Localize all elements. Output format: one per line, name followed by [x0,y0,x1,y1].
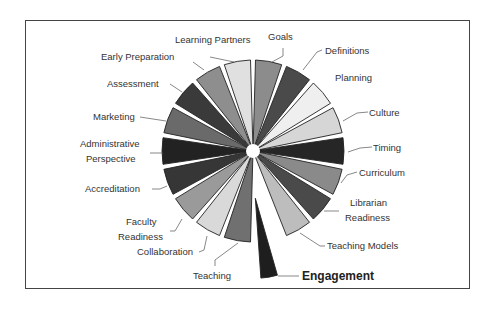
label-engagement: Engagement [302,269,374,283]
label-marketing: Marketing [93,111,135,122]
label-culture: Culture [369,107,400,118]
label-faculty-readiness-2: Readiness [118,231,163,242]
label-librarian-readiness-2: Readiness [345,212,390,223]
label-planning: Planning [335,72,372,83]
label-faculty-readiness-1: Faculty [126,216,157,227]
label-teaching-models: Teaching Models [327,240,399,251]
label-timing: Timing [373,142,401,153]
label-goals: Goals [268,31,293,42]
label-learning-partners: Learning Partners [175,34,251,45]
slice-engagement [255,198,277,278]
label-definitions: Definitions [325,45,370,56]
pie-diagram: Goals Definitions Planning Culture Timin… [0,0,494,310]
label-teaching: Teaching [193,270,231,281]
label-administrative-perspective-1: Administrative [80,138,140,149]
label-assessment: Assessment [107,78,159,89]
label-early-preparation: Early Preparation [101,51,174,62]
center-hole [246,144,260,158]
label-accreditation: Accreditation [85,183,140,194]
label-collaboration: Collaboration [137,246,193,257]
label-librarian-readiness-1: Librarian [350,197,387,208]
label-curriculum: Curriculum [359,167,405,178]
label-administrative-perspective-2: Perspective [86,153,136,164]
